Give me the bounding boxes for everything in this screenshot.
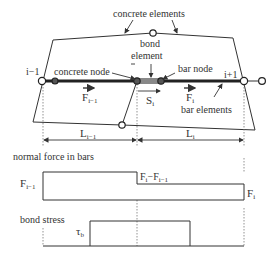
normal-force-title: normal force in bars <box>13 151 94 162</box>
label-slip: Si <box>146 94 154 108</box>
label-length-left: Li−1 <box>80 127 97 141</box>
concrete-node-top <box>150 30 156 36</box>
concrete-node-left <box>52 78 58 84</box>
node-right-extra <box>259 78 266 85</box>
label-normal-diff: Fi−Fi−1 <box>140 171 169 184</box>
label-normal-right: Fi <box>247 187 255 201</box>
bond-stress-title: bond stress <box>20 214 65 225</box>
concrete-node-bottom <box>119 122 125 128</box>
label-bar-node: bar node <box>178 63 213 74</box>
label-bond-line1: bond <box>140 38 160 49</box>
label-node-i-plus-1: i+1 <box>224 69 237 80</box>
node-i-plus-1 <box>240 77 247 84</box>
bond-stress-plot <box>43 221 244 246</box>
label-bond-line2: element <box>131 50 163 61</box>
label-bar-elements: bar elements <box>181 104 232 115</box>
label-force-right: Fi <box>186 91 194 105</box>
label-concrete-elements: concrete elements <box>113 8 185 19</box>
label-length-right: Li <box>186 127 195 141</box>
label-tau-b: τb <box>76 225 84 239</box>
node-i-minus-1 <box>38 77 45 84</box>
label-concrete-node: concrete node <box>54 66 110 77</box>
diagram-svg: concrete elements bond element concrete … <box>0 0 279 257</box>
label-force-left: Fi−1 <box>82 91 98 105</box>
label-normal-left: Fi−1 <box>20 177 36 191</box>
bond-model-diagram: concrete elements bond element concrete … <box>0 0 279 257</box>
label-node-i-minus-1: i−1 <box>26 66 39 77</box>
